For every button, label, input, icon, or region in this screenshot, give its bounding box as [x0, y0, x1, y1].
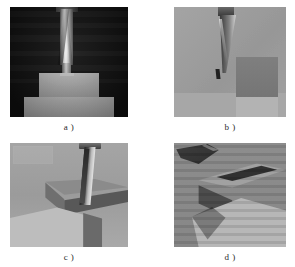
panel-a: a ) — [10, 7, 128, 117]
tool-holder — [218, 7, 234, 16]
panel-c-caption: c ) — [10, 251, 128, 263]
panel-c: c ) — [10, 143, 128, 247]
figure-root: a ) b ) — [0, 0, 295, 267]
panel-a-caption: a ) — [10, 121, 128, 133]
panel-a-image — [10, 7, 128, 117]
panel-d-caption: d ) — [174, 251, 286, 263]
panel-b-caption: b ) — [174, 121, 286, 133]
panel-d-image — [174, 143, 286, 247]
panel-d: d ) — [174, 143, 286, 247]
workpiece-block — [236, 57, 278, 97]
workpiece-step — [236, 97, 278, 117]
panel-b-image — [174, 7, 286, 117]
panel-c-image — [10, 143, 128, 247]
panel-b: b ) — [174, 7, 286, 117]
